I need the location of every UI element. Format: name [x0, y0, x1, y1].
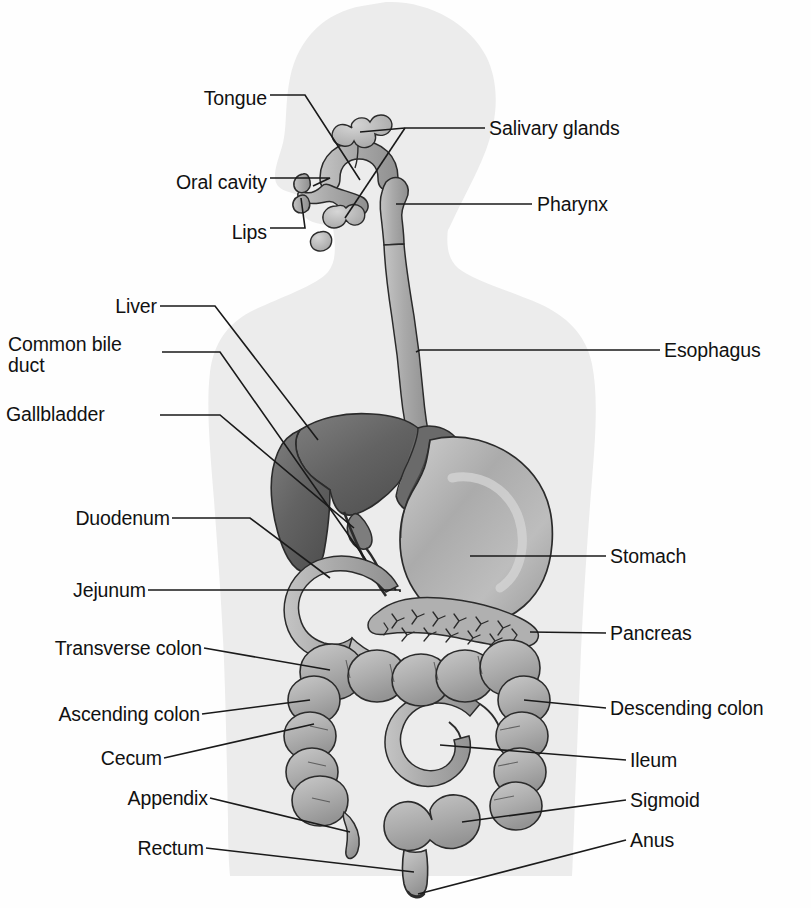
label-lips-text: Lips	[232, 221, 267, 243]
label-jejunum: Jejunum	[0, 580, 146, 601]
label-common-bile-duct-text: Common bile duct	[8, 333, 122, 376]
digestive-system-figure: Tongue Oral cavity Lips Liver Common bil…	[0, 0, 811, 908]
label-sigmoid-text: Sigmoid	[630, 789, 700, 811]
label-anus: Anus	[630, 830, 674, 851]
label-liver-text: Liver	[115, 295, 157, 317]
label-duodenum: Duodenum	[0, 508, 170, 529]
label-descending-colon: Descending colon	[610, 698, 763, 719]
label-salivary-glands-text: Salivary glands	[489, 117, 620, 139]
label-gallbladder-text: Gallbladder	[6, 403, 105, 425]
label-descending-colon-text: Descending colon	[610, 697, 763, 719]
label-transverse-colon-text: Transverse colon	[55, 637, 202, 659]
label-tongue-text: Tongue	[204, 87, 267, 109]
label-oral-cavity-text: Oral cavity	[176, 171, 267, 193]
label-appendix-text: Appendix	[127, 787, 208, 809]
label-cecum-text: Cecum	[101, 747, 162, 769]
label-esophagus: Esophagus	[664, 340, 761, 361]
label-pancreas: Pancreas	[610, 623, 692, 644]
label-ileum: Ileum	[630, 750, 677, 771]
lips-shape	[294, 174, 310, 193]
anatomy-illustration	[0, 0, 811, 908]
label-ascending-colon-text: Ascending colon	[58, 703, 200, 725]
rectum-shape	[403, 850, 428, 896]
label-pharynx-text: Pharynx	[537, 193, 608, 215]
label-rectum: Rectum	[0, 838, 204, 859]
label-salivary-glands: Salivary glands	[489, 118, 620, 139]
label-duodenum-text: Duodenum	[75, 507, 170, 529]
label-cecum: Cecum	[0, 748, 162, 769]
label-common-bile-duct: Common bile duct	[8, 334, 160, 376]
label-anus-text: Anus	[630, 829, 674, 851]
label-appendix: Appendix	[0, 788, 208, 809]
leader-pancreas	[530, 632, 606, 633]
label-stomach: Stomach	[610, 546, 686, 567]
label-pancreas-text: Pancreas	[610, 622, 692, 644]
label-lips: Lips	[52, 222, 267, 243]
label-transverse-colon: Transverse colon	[0, 638, 202, 659]
label-liver: Liver	[0, 296, 157, 317]
label-tongue: Tongue	[52, 88, 267, 109]
label-ileum-text: Ileum	[630, 749, 677, 771]
label-oral-cavity: Oral cavity	[0, 172, 267, 193]
cecum-shape	[292, 776, 348, 826]
label-stomach-text: Stomach	[610, 545, 686, 567]
label-esophagus-text: Esophagus	[664, 339, 761, 361]
label-pharynx: Pharynx	[537, 194, 608, 215]
label-jejunum-text: Jejunum	[73, 579, 146, 601]
label-ascending-colon: Ascending colon	[0, 704, 200, 725]
label-gallbladder: Gallbladder	[6, 404, 166, 425]
label-sigmoid: Sigmoid	[630, 790, 700, 811]
label-rectum-text: Rectum	[137, 837, 204, 859]
